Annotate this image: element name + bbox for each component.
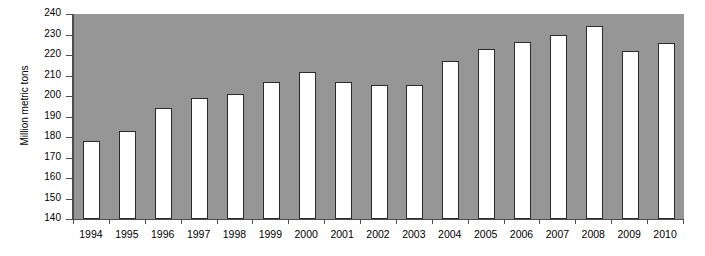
bar xyxy=(263,82,280,219)
x-axis-tick-mark xyxy=(288,219,289,224)
bar xyxy=(119,131,136,219)
x-axis-tick-mark xyxy=(683,219,684,224)
x-axis-tick-mark xyxy=(217,219,218,224)
y-axis: 240230220210200190180170160150140 xyxy=(0,14,73,220)
x-axis-tick-mark xyxy=(611,219,612,224)
bar xyxy=(191,98,208,219)
x-axis-tick-label: 2005 xyxy=(468,228,504,240)
x-axis-tick-label: 2001 xyxy=(324,228,360,240)
x-axis-tick-label: 1996 xyxy=(145,228,181,240)
bar xyxy=(335,82,352,219)
y-axis-tick-label: 180 xyxy=(44,130,61,141)
x-axis-tick-label: 2007 xyxy=(539,228,575,240)
x-axis-tick-mark xyxy=(181,219,182,224)
x-axis-tick-mark xyxy=(73,219,74,224)
plot-area xyxy=(73,14,684,219)
x-axis-tick-label: 2006 xyxy=(504,228,540,240)
bar xyxy=(658,43,675,219)
bar-chart: Million metric tons 24023022021020019018… xyxy=(0,0,705,256)
y-axis-tick-label: 190 xyxy=(44,110,61,121)
y-axis-tick-label: 200 xyxy=(44,89,61,100)
bar xyxy=(406,85,423,219)
x-axis-tick-label: 1995 xyxy=(109,228,145,240)
y-axis-tick-label: 160 xyxy=(44,171,61,182)
y-axis-tick-label: 220 xyxy=(44,48,61,59)
bars-container xyxy=(74,14,684,219)
x-axis-tick-mark xyxy=(504,219,505,224)
y-axis-tick-label: 240 xyxy=(44,7,61,18)
bar xyxy=(371,85,388,219)
x-axis-tick-label: 2008 xyxy=(575,228,611,240)
x-axis-tick-label: 2004 xyxy=(432,228,468,240)
x-axis-tick-mark xyxy=(145,219,146,224)
x-axis-tick-mark xyxy=(468,219,469,224)
y-axis-tick-label: 230 xyxy=(44,28,61,39)
x-axis-tick-label: 2010 xyxy=(647,228,683,240)
x-axis-labels: 1994199519961997199819992000200120022003… xyxy=(73,228,683,244)
x-axis-tick-mark xyxy=(575,219,576,224)
x-axis-tick-mark xyxy=(252,219,253,224)
x-axis-ticks xyxy=(73,219,683,225)
x-axis-tick-mark xyxy=(324,219,325,224)
x-axis-tick-mark xyxy=(109,219,110,224)
x-axis-tick-label: 1997 xyxy=(181,228,217,240)
y-axis-tick-label: 210 xyxy=(44,69,61,80)
x-axis-tick-mark xyxy=(647,219,648,224)
x-axis-tick-label: 2009 xyxy=(611,228,647,240)
bar xyxy=(442,61,459,219)
x-axis-tick-mark xyxy=(360,219,361,224)
bar xyxy=(514,42,531,219)
x-axis-tick-label: 2002 xyxy=(360,228,396,240)
x-axis-tick-mark xyxy=(432,219,433,224)
x-axis-tick-label: 2000 xyxy=(288,228,324,240)
bar xyxy=(622,51,639,219)
bar xyxy=(155,108,172,219)
y-axis-tick-label: 150 xyxy=(44,192,61,203)
x-axis-tick-label: 1999 xyxy=(252,228,288,240)
bar xyxy=(478,49,495,219)
x-axis-tick-mark xyxy=(539,219,540,224)
bar xyxy=(299,72,316,219)
x-axis-tick-label: 1994 xyxy=(73,228,109,240)
bar xyxy=(83,141,100,219)
x-axis-tick-mark xyxy=(396,219,397,224)
y-axis-tick-label: 140 xyxy=(44,212,61,223)
y-axis-tick-label: 170 xyxy=(44,151,61,162)
x-axis-tick-label: 2003 xyxy=(396,228,432,240)
bar xyxy=(227,94,244,219)
x-axis-tick-label: 1998 xyxy=(217,228,253,240)
bar xyxy=(550,35,567,220)
bar xyxy=(586,26,603,219)
